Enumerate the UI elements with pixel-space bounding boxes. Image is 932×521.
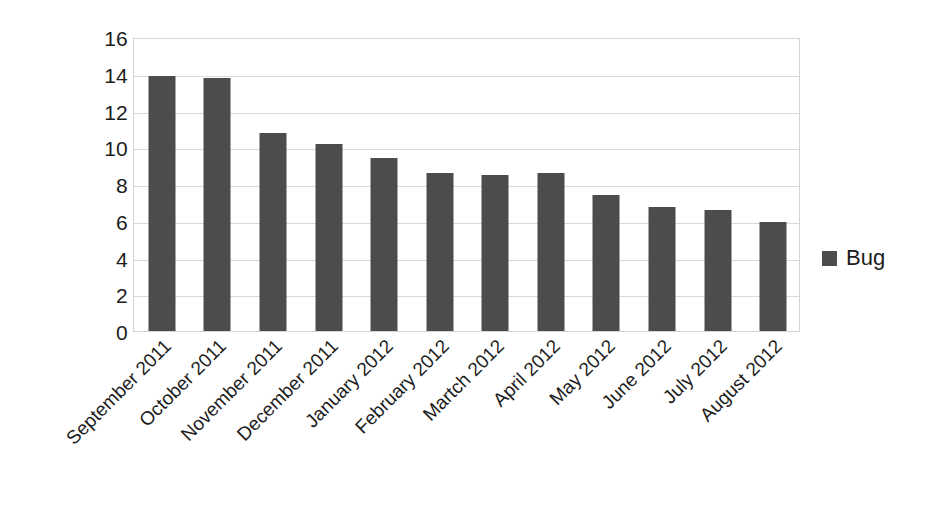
bars-layer: [134, 39, 799, 331]
filled-square-icon: [822, 251, 837, 266]
bar[interactable]: [537, 173, 564, 331]
plot-area: [133, 38, 800, 332]
y-axis: 1614121086420: [60, 38, 128, 332]
y-axis-tick-label: 6: [60, 211, 128, 232]
bar-slot: [301, 39, 357, 331]
y-axis-tick-label: 4: [60, 248, 128, 269]
bar-slot: [523, 39, 579, 331]
y-axis-tick-label: 16: [60, 28, 128, 49]
bar-slot: [745, 39, 801, 331]
bar-slot: [634, 39, 690, 331]
y-axis-tick-label: 10: [60, 138, 128, 159]
bar[interactable]: [204, 78, 231, 331]
bar[interactable]: [649, 207, 676, 331]
bar[interactable]: [315, 144, 342, 331]
bar-slot: [356, 39, 412, 331]
bar[interactable]: [760, 222, 787, 331]
bar[interactable]: [593, 195, 620, 331]
legend-item-label: Bug: [846, 247, 885, 269]
y-axis-tick-label: 14: [60, 64, 128, 85]
bar[interactable]: [426, 173, 453, 331]
bar[interactable]: [371, 158, 398, 331]
y-axis-tick-label: 12: [60, 101, 128, 122]
bar-slot: [245, 39, 301, 331]
bar-slot: [690, 39, 746, 331]
y-axis-tick-label: 8: [60, 175, 128, 196]
y-axis-tick-label: 2: [60, 285, 128, 306]
bar-slot: [579, 39, 635, 331]
x-axis: September 2011October 2011November 2011D…: [133, 336, 800, 496]
y-axis-tick-label: 0: [60, 322, 128, 343]
bar[interactable]: [259, 133, 286, 331]
legend: Bug: [822, 247, 885, 269]
bar-slot: [468, 39, 524, 331]
bar[interactable]: [704, 210, 731, 331]
bar-slot: [412, 39, 468, 331]
bar[interactable]: [148, 76, 175, 331]
bar-chart: 1614121086420 September 2011October 2011…: [0, 0, 932, 521]
bar[interactable]: [482, 175, 509, 331]
bar-slot: [134, 39, 190, 331]
bar-slot: [190, 39, 246, 331]
